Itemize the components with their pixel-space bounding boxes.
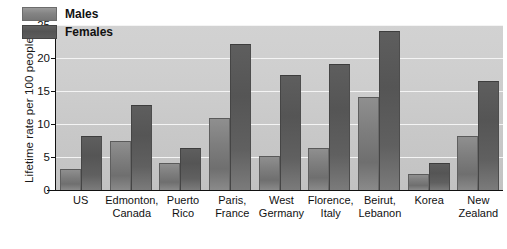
legend-entry-males: Males <box>22 7 113 21</box>
y-tick-15: 15 <box>24 85 50 97</box>
x-label-3: Paris,France <box>208 194 257 220</box>
y-tick-20: 20 <box>24 52 50 64</box>
bar-females-2 <box>180 148 201 190</box>
bar-males-4 <box>259 156 280 190</box>
legend: Males Females <box>22 7 113 39</box>
x-label-line1-2: Puerto <box>167 194 199 206</box>
bar-group-puerto-rico <box>155 25 205 190</box>
legend-swatch-females-icon <box>22 25 57 39</box>
bar-group-edmonton-canada <box>106 25 156 190</box>
x-label-line1-7: Korea <box>414 194 443 206</box>
bar-males-0 <box>60 169 81 190</box>
bar-males-1 <box>110 141 131 190</box>
x-label-2: PuertoRico <box>158 194 207 220</box>
bar-females-1 <box>131 105 152 190</box>
y-tick-5: 5 <box>24 151 50 163</box>
bar-females-3 <box>230 44 251 190</box>
x-label-line1-3: Paris, <box>218 194 246 206</box>
legend-swatch-males-icon <box>22 7 57 21</box>
bar-groups <box>56 25 503 190</box>
bar-males-8 <box>457 136 478 190</box>
bar-females-6 <box>379 31 400 190</box>
bar-group-new-zealand <box>453 25 503 190</box>
x-label-line2-5: Italy <box>306 207 355 220</box>
x-label-1: Edmonton,Canada <box>105 194 158 220</box>
bar-females-0 <box>81 136 102 190</box>
x-label-line1-5: Florence, <box>308 194 354 206</box>
legend-entry-females: Females <box>22 25 113 39</box>
x-label-line1-1: Edmonton, <box>105 194 158 206</box>
x-axis-line <box>47 190 503 191</box>
bar-females-5 <box>329 64 350 190</box>
bar-group-beirut-lebanon <box>354 25 404 190</box>
x-label-0: US <box>56 194 105 220</box>
x-label-line2-1: Canada <box>105 207 158 220</box>
bar-females-7 <box>429 163 450 190</box>
legend-label-females: Females <box>65 25 113 39</box>
bar-males-5 <box>308 148 329 190</box>
x-label-line1-4: West <box>269 194 294 206</box>
y-tick-10: 10 <box>24 118 50 130</box>
x-label-line2-8: Zealand <box>454 207 503 220</box>
bar-group-west-germany <box>255 25 305 190</box>
x-label-line2-6: Lebanon <box>355 207 404 220</box>
x-label-line1-0: US <box>73 194 88 206</box>
x-axis-category-labels: USEdmonton,CanadaPuertoRicoParis,FranceW… <box>56 194 503 220</box>
bar-females-4 <box>280 75 301 190</box>
legend-label-males: Males <box>65 7 98 21</box>
bar-group-florence-italy <box>304 25 354 190</box>
bar-males-7 <box>408 174 429 190</box>
x-label-6: Beirut,Lebanon <box>355 194 404 220</box>
bar-males-3 <box>209 118 230 190</box>
x-label-7: Korea <box>405 194 454 220</box>
bar-females-8 <box>478 81 499 190</box>
x-label-4: WestGermany <box>257 194 306 220</box>
x-label-line1-8: New <box>467 194 489 206</box>
plot-area <box>56 25 503 190</box>
x-label-line2-3: France <box>208 207 257 220</box>
bar-males-6 <box>358 97 379 190</box>
x-label-line2-4: Germany <box>257 207 306 220</box>
bar-chart: Lifetime rate per 100 people 0510152025 … <box>0 0 507 249</box>
bar-group-paris-france <box>205 25 255 190</box>
bar-group-korea <box>404 25 454 190</box>
x-label-line2-2: Rico <box>158 207 207 220</box>
bar-males-2 <box>159 163 180 190</box>
x-label-8: NewZealand <box>454 194 503 220</box>
bar-group-us <box>56 25 106 190</box>
x-label-5: Florence,Italy <box>306 194 355 220</box>
x-label-line1-6: Beirut, <box>364 194 396 206</box>
